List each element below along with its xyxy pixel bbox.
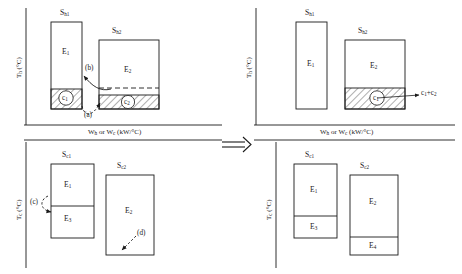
- label-e3-cold-before: E3: [64, 215, 71, 223]
- hot-x-axis-label-left: Wh or Wc (kW/°C): [88, 129, 141, 136]
- cold-y-axis-label-left: Tc (°C): [16, 200, 23, 220]
- block-sc1-before: [51, 164, 94, 238]
- annotation-c: (c): [30, 199, 38, 206]
- label-e2-after: E2: [370, 62, 377, 70]
- label-sc1-before: Sc1: [62, 151, 71, 159]
- label-e2-cold-after: E2: [369, 198, 376, 206]
- label-e1-cold-after: E1: [310, 186, 317, 194]
- callout-c1-plus-c2: c1+c2: [421, 90, 437, 97]
- panel-top-left: [24, 8, 222, 125]
- label-e3-cold-after: E3: [310, 223, 317, 231]
- panel-top-right: [254, 8, 455, 125]
- label-sc1-after: Sc1: [305, 151, 314, 159]
- annotation-b: (b): [85, 65, 93, 72]
- figure-canvas: Sh1 E1 c1 Sh2 E2 c2 (b) (a) Th (°C) Wh o…: [0, 0, 462, 274]
- transform-arrow-glyph: [222, 137, 251, 152]
- label-c1-after: c1: [373, 95, 379, 102]
- label-e1-after: E1: [307, 60, 314, 68]
- label-c2-before: c2: [124, 99, 130, 106]
- hot-y-axis-label-left: Th (°C): [16, 57, 23, 78]
- label-sh1-after: Sh1: [305, 9, 314, 17]
- annotation-a: (a): [84, 112, 92, 119]
- hot-x-axis-label-right: Wh or Wc (kW/°C): [320, 129, 373, 136]
- hot-y-axis-label-right: Th (°C): [246, 57, 253, 78]
- label-sh1-before: Sh1: [60, 9, 69, 17]
- label-sh2-before: Sh2: [112, 27, 121, 35]
- label-e2-cold-before: E2: [125, 207, 132, 215]
- label-e4-cold-after: E4: [369, 242, 376, 250]
- label-sh2-after: Sh2: [358, 27, 367, 35]
- label-e2-before: E2: [124, 66, 131, 74]
- label-c1-before: c1: [62, 95, 68, 102]
- annotation-d: (d): [137, 230, 145, 237]
- arrow-c: [42, 196, 51, 212]
- panel-bottom-right: [254, 140, 455, 268]
- diagram-vector-layer: [0, 0, 462, 274]
- cold-y-axis-label-right: Tc (°C): [266, 200, 273, 220]
- label-sc2-after: Sc2: [360, 162, 369, 170]
- label-sc2-before: Sc2: [117, 162, 126, 170]
- label-e1-before: E1: [62, 48, 69, 56]
- panel-bottom-left: [24, 140, 222, 268]
- label-e1-cold-before: E1: [64, 181, 71, 189]
